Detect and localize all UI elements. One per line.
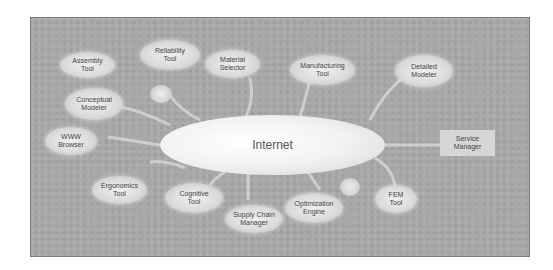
node-supply-chain-manager[interactable]: Supply Chain Manager	[225, 205, 283, 233]
node-label: Ergonomics Tool	[101, 182, 138, 198]
node-label: FEM Tool	[389, 191, 404, 207]
internet-hub[interactable]: Internet	[160, 115, 385, 175]
connector-blob	[340, 178, 360, 196]
node-label: Detailed Modeler	[411, 63, 437, 79]
node-manufacturing-tool[interactable]: Manufacturing Tool	[290, 55, 355, 85]
node-label: Manufacturing Tool	[300, 62, 344, 78]
internet-label: Internet	[252, 138, 293, 152]
node-detailed-modeler[interactable]: Detailed Modeler	[395, 55, 453, 87]
node-label: Assembly Tool	[72, 57, 102, 73]
node-label: Optimization Engine	[295, 200, 334, 216]
node-label: WWW Browser	[58, 133, 84, 149]
node-service-manager[interactable]: Service Manager	[440, 130, 495, 156]
node-fem-tool[interactable]: FEM Tool	[375, 185, 417, 213]
node-conceptual-modeler[interactable]: Conceptual Modeler	[65, 88, 123, 120]
node-label: Service Manager	[454, 135, 482, 151]
node-assembly-tool[interactable]: Assembly Tool	[60, 52, 115, 78]
node-optimization-engine[interactable]: Optimization Engine	[285, 193, 343, 223]
node-label: Conceptual Modeler	[76, 96, 111, 112]
node-label: Supply Chain Manager	[233, 211, 275, 227]
node-material-selector[interactable]: Material Selector	[205, 50, 260, 78]
node-label: Reliability Tool	[155, 47, 185, 63]
connector-blob	[150, 85, 172, 103]
node-reliability-tool[interactable]: Reliability Tool	[140, 40, 200, 70]
node-www-browser[interactable]: WWW Browser	[45, 127, 97, 155]
node-label: Cognitive Tool	[179, 190, 208, 206]
node-label: Material Selector	[220, 56, 246, 72]
node-cognitive-tool[interactable]: Cognitive Tool	[165, 183, 223, 213]
node-ergonomics-tool[interactable]: Ergonomics Tool	[92, 176, 147, 204]
